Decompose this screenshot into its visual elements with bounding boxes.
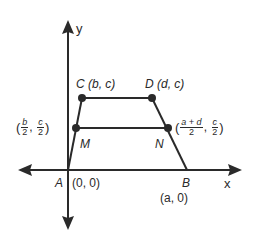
point-C-coords: (b, c) [88,77,115,91]
x-axis-label: x [224,177,231,190]
y-axis-label: y [76,22,83,35]
point-M [72,124,80,132]
y-axis-down-arrow-icon [62,216,74,230]
comma: , [204,120,207,134]
denominator: 2 [188,128,195,137]
point-A-coords: (0, 0) [72,177,100,189]
open-paren: ( [16,120,20,135]
point-D-coords: (d, c) [157,77,184,91]
x-axis [18,164,242,176]
point-D [148,94,156,102]
point-B-name: B [182,177,190,189]
point-C-label: C (b, c) [76,78,115,90]
close-paren: ) [219,120,223,135]
point-A-name: A [55,177,63,189]
fraction-x: a + d2 [180,118,202,137]
x-axis-left-arrow-icon [18,164,32,176]
point-C-name: C [76,77,85,91]
point-N [164,124,172,132]
x-axis-right-arrow-icon [228,164,242,176]
denominator: 2 [37,128,44,137]
point-N-name: N [155,138,164,150]
trapezoid [68,98,187,170]
point-B-coords: (a, 0) [160,192,188,204]
y-axis [62,20,74,230]
segment-AC [68,98,82,170]
point-N-coords: (a + d2, c2) [175,118,224,137]
point-D-label: D (d, c) [145,78,184,90]
denominator: 2 [21,128,28,137]
fraction-x: b2 [21,118,28,137]
close-paren: ) [45,120,49,135]
denominator: 2 [211,128,218,137]
fraction-y: c2 [211,118,218,137]
point-C [78,94,86,102]
fraction-y: c2 [37,118,44,137]
point-M-coords: (b2, c2) [16,118,49,137]
open-paren: ( [175,120,179,135]
point-D-name: D [145,77,154,91]
comma: , [29,120,32,134]
point-M-name: M [80,138,90,150]
y-axis-up-arrow-icon [62,20,74,34]
